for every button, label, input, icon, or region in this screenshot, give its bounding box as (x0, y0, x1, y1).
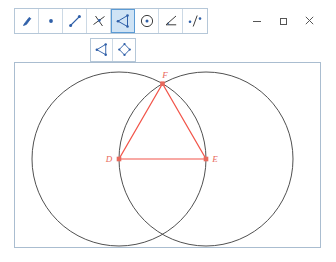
tool-segment[interactable] (63, 9, 87, 33)
close-icon (305, 16, 314, 27)
polygon-icon (94, 42, 109, 59)
titlebar-row (14, 8, 322, 36)
circle-with-center-icon (139, 13, 155, 29)
tool-circle[interactable] (135, 9, 159, 33)
tool-polygon-sub[interactable] (91, 39, 113, 61)
point-F-marker[interactable] (160, 81, 165, 86)
tool-pointer-arrow[interactable] (15, 9, 39, 33)
point-icon (43, 13, 59, 29)
geometry-construction: D E F (15, 63, 320, 247)
primary-toolbar (14, 8, 208, 34)
segment-icon (67, 13, 83, 29)
point-E-label: E (211, 154, 218, 164)
maximize-icon (280, 18, 287, 25)
minimize-button[interactable] (244, 10, 270, 32)
tool-polygon[interactable] (111, 9, 135, 33)
perpendicular-line-icon (91, 13, 107, 29)
tool-rigid-polygon[interactable] (113, 39, 135, 61)
angle-icon (163, 13, 179, 29)
polygon-icon (115, 13, 131, 29)
point-D-marker[interactable] (117, 157, 122, 162)
rigid-polygon-icon (117, 42, 132, 59)
close-button[interactable] (296, 10, 322, 32)
tool-angle[interactable] (159, 9, 183, 33)
drawing-canvas[interactable]: D E F (14, 62, 321, 248)
tool-perpendicular-line[interactable] (87, 9, 111, 33)
pointer-arrow-icon (19, 13, 35, 29)
point-E-marker[interactable] (204, 157, 209, 162)
tool-reflect-about-line[interactable] (183, 9, 207, 33)
point-F-label: F (161, 70, 168, 80)
tool-point[interactable] (39, 9, 63, 33)
triangle-DEF[interactable] (119, 84, 206, 159)
reflect-about-line-icon (187, 13, 203, 29)
minimize-icon (253, 21, 261, 22)
geometry-app-window: D E F (0, 0, 336, 262)
point-D-label: D (105, 154, 113, 164)
window-controls (244, 8, 322, 34)
secondary-toolbar (90, 38, 136, 62)
maximize-button[interactable] (270, 10, 296, 32)
